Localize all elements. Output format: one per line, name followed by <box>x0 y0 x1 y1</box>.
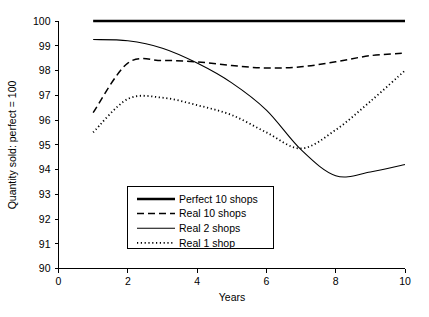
x-tick-label: 2 <box>125 275 131 287</box>
line-chart: 90919293949596979899100 0246810 Years Qu… <box>0 0 429 317</box>
x-tick-label: 8 <box>333 275 339 287</box>
y-tick-label: 92 <box>39 213 51 225</box>
x-axis-ticks: 0246810 <box>56 269 411 287</box>
legend-label-2: Real 2 shops <box>179 222 240 234</box>
chart-container: 90919293949596979899100 0246810 Years Qu… <box>0 0 429 317</box>
x-tick-label: 6 <box>263 275 269 287</box>
chart-series-layer <box>93 21 405 177</box>
legend-label-3: Real 1 shop <box>179 237 235 249</box>
series-line-1 <box>93 53 405 112</box>
chart-legend: Perfect 10 shopsReal 10 shopsReal 2 shop… <box>128 187 274 249</box>
x-axis-title: Years <box>219 291 245 303</box>
y-tick-label: 91 <box>39 238 51 250</box>
y-tick-label: 97 <box>39 89 51 101</box>
series-line-2 <box>93 40 405 177</box>
y-tick-label: 98 <box>39 64 51 76</box>
x-tick-label: 4 <box>194 275 200 287</box>
y-axis-title: Quantity sold: perfect = 100 <box>6 80 18 209</box>
y-tick-label: 93 <box>39 188 51 200</box>
y-tick-label: 100 <box>33 15 51 27</box>
legend-label-1: Real 10 shops <box>179 207 246 219</box>
x-tick-label: 10 <box>399 275 411 287</box>
series-line-3 <box>93 71 405 149</box>
legend-label-0: Perfect 10 shops <box>179 193 258 205</box>
y-tick-label: 95 <box>39 139 51 151</box>
y-tick-label: 90 <box>39 262 51 274</box>
y-tick-label: 94 <box>39 163 51 175</box>
y-tick-label: 96 <box>39 114 51 126</box>
y-tick-label: 99 <box>39 40 51 52</box>
y-axis-ticks: 90919293949596979899100 <box>33 15 59 275</box>
x-tick-label: 0 <box>56 275 62 287</box>
